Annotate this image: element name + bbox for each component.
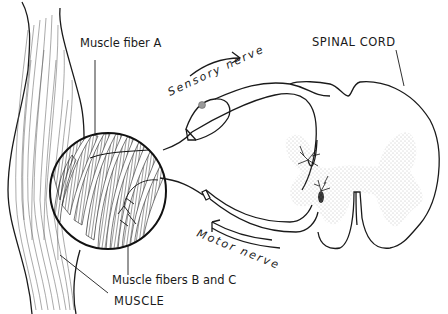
label-muscle: MUSCLE bbox=[114, 294, 164, 308]
muscle-spinal-cord-diagram: Muscle fiber A Sensory nerve SPINAL CORD… bbox=[0, 0, 448, 314]
label-muscle-fibers-bc: Muscle fibers B and C bbox=[112, 273, 236, 287]
leader-line-spinal-cord bbox=[396, 50, 404, 86]
leader-line-muscle bbox=[60, 255, 108, 293]
spinal-cord bbox=[286, 82, 439, 249]
label-spinal-cord: SPINAL CORD bbox=[312, 35, 396, 49]
gray-matter bbox=[286, 132, 423, 226]
magnified-muscle-fibers bbox=[50, 133, 168, 250]
label-muscle-fiber-a: Muscle fiber A bbox=[80, 36, 161, 50]
label-sensory-nerve: Sensory nerve bbox=[166, 42, 267, 98]
ganglion-cell-icon bbox=[199, 102, 206, 109]
